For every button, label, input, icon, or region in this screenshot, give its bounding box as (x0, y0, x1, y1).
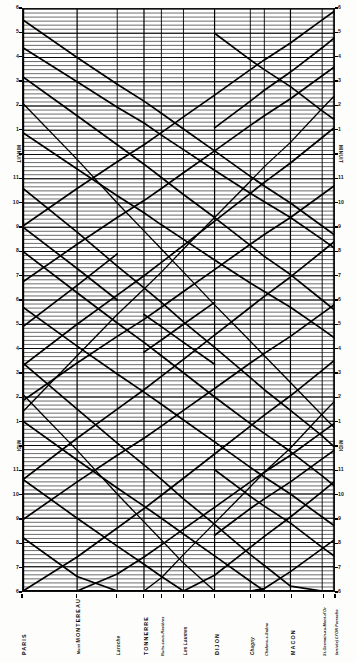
time-axis-right: 654321MINUIT1110987654321MIDI11109876 (335, 0, 357, 600)
train-up-06 (23, 305, 334, 520)
station-label-inner: PARIS (22, 633, 27, 655)
hour-tick-right-7-23: 7 (338, 565, 341, 570)
hour-tick-right-9-9: 9 (338, 224, 341, 229)
station-sublabel: Moret (77, 643, 81, 654)
hour-tick-right-5-13: 5 (338, 322, 341, 327)
hour-tick-right-6-24: 6 (338, 589, 341, 594)
station-label-dijon: DIJON (215, 655, 237, 660)
station-label-macon: MACON (291, 655, 317, 660)
hour-tick-right-6-12: 6 (338, 297, 341, 302)
hour-tick-mark (335, 105, 338, 106)
hour-tick-right-8-22: 8 (338, 541, 341, 546)
station-label-les-laumes: Les Laumes (184, 655, 213, 660)
station-tick-mark (264, 594, 265, 598)
hour-tick-right-3-15: 3 (338, 370, 341, 375)
hour-tick-mark (335, 129, 338, 130)
station-tick-mark (76, 594, 77, 598)
station-tick-mark (21, 594, 22, 598)
station-label-inner: Moret MONTEREAU (76, 598, 82, 654)
station-tick-mark (116, 594, 117, 598)
hour-tick-mark (335, 494, 338, 495)
station-name-text: TONNERRE (143, 616, 149, 655)
train-local-a (23, 104, 334, 428)
hour-tick-mark (335, 153, 338, 154)
hour-tick-right-1-5: 1 (338, 127, 341, 132)
station-name-text: Nuits-sous-Ravières (160, 617, 165, 657)
hour-tick-right-3-3: 3 (338, 78, 341, 83)
train-up-07 (23, 361, 334, 591)
hour-tick-mark (335, 56, 338, 57)
station-label-inner: (arrivée) LYON Perrache (335, 610, 340, 656)
station-name-text: Les Laumes (183, 627, 188, 656)
station-tick-mark (334, 594, 335, 598)
hour-tick-right-2-16: 2 (338, 395, 341, 400)
station-name-text: DIJON (214, 633, 220, 655)
station-label-inner: Les Laumes (184, 627, 189, 656)
station-name-text: MONTEREAU (75, 598, 81, 643)
hour-tick-mark (335, 275, 338, 276)
marey-train-schedule-figure: 654321MINUIT1110987654321MIDI11109876 65… (0, 0, 357, 662)
station-tick-mark (183, 594, 184, 598)
hour-tick-mark (335, 348, 338, 349)
schedule-plot-area (22, 8, 335, 592)
hour-tick-right-10-20: 10 (338, 492, 344, 497)
hour-tick-right-1-17: 1 (338, 419, 341, 424)
train-short-laroche-paris-1 (23, 254, 117, 327)
hour-tick-right-11-7: 11 (338, 176, 344, 181)
hour-tick-mark (335, 299, 338, 300)
hour-tick-mark (335, 226, 338, 227)
station-label-inner: TONNERRE (144, 616, 149, 655)
station-label-inner: St-Germain-au-Mont-d'Or (323, 607, 327, 656)
hour-tick-right-5-1: 5 (338, 30, 341, 35)
train-up-01 (23, 11, 334, 226)
hour-tick-right-10-8: 10 (338, 200, 344, 205)
hour-tick-right-4-2: 4 (338, 54, 341, 59)
schedule-plot-svg (23, 9, 334, 591)
hour-tick-mark (335, 80, 338, 81)
station-label-inner: DIJON (215, 633, 220, 655)
station-name-text: MACON (290, 629, 296, 655)
hour-tick-right-2-4: 2 (338, 103, 341, 108)
hour-tick-mark (335, 518, 338, 519)
hour-tick-mark (335, 372, 338, 373)
station-tick-mark (214, 594, 215, 598)
hour-tick-mark (335, 421, 338, 422)
time-axis-left: 654321MINUIT1110987654321MIDI11109876 (0, 0, 22, 600)
station-name-text: Laroche (116, 636, 121, 655)
hour-tick-mark (335, 445, 338, 446)
train-down-01 (23, 20, 334, 235)
hour-tick-mark (335, 567, 338, 568)
hour-tick-mark (335, 178, 338, 179)
hour-tick-mark (335, 324, 338, 325)
station-label-inner: Nuits-sous-Ravières (161, 617, 165, 657)
station-name-text: Chagny (250, 637, 255, 655)
station-label-lyon-perrache: (arrivée) LYON Perrache (335, 655, 357, 660)
hour-tick-mark (335, 543, 338, 544)
hour-tick-right-8-10: 8 (338, 249, 341, 254)
hour-tick-right-4-14: 4 (338, 346, 341, 351)
station-label-strip: PARISMoret MONTEREAULarocheTONNERRENuits… (22, 594, 335, 662)
hour-tick-mark (335, 202, 338, 203)
station-label-inner: Laroche (117, 636, 122, 655)
train-lines (23, 11, 334, 591)
station-name-text: St-Germain-au-Mont-d'Or (322, 607, 327, 656)
station-tick-mark (291, 594, 292, 598)
hour-tick-mark (335, 591, 338, 592)
station-sublabel: (arrivée) (335, 639, 339, 655)
hour-tick-mark (335, 397, 338, 398)
station-name-text: LYON Perrache (334, 610, 339, 640)
station-tick-mark (161, 594, 162, 598)
station-name-text: Chalons-s-Saône (264, 623, 269, 656)
hour-gridlines (23, 9, 334, 591)
station-label-laroche: Laroche (117, 655, 136, 660)
station-label-inner: Chagny (251, 637, 256, 655)
hour-tick-right-6-0: 6 (338, 5, 341, 10)
hour-tick-right-7-11: 7 (338, 273, 341, 278)
hour-tick-mark (335, 7, 338, 8)
hour-tick-mark (335, 251, 338, 252)
station-label-inner: MACON (291, 629, 296, 655)
hour-tick-mark (335, 470, 338, 471)
hour-tick-right-11-19: 11 (338, 468, 344, 473)
train-down-07 (23, 307, 334, 525)
hour-tick-right-9-21: 9 (338, 516, 341, 521)
